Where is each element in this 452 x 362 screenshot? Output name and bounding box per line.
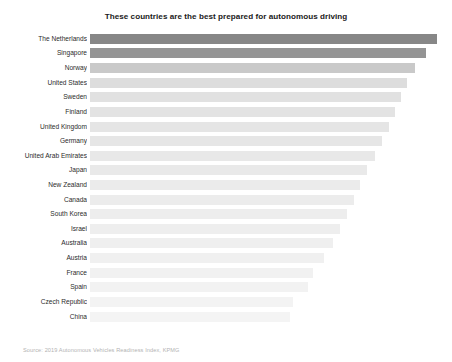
bar-track <box>90 312 447 322</box>
bar-category-label: United States <box>0 79 87 87</box>
bar-track <box>90 282 447 292</box>
bar-track <box>90 253 447 263</box>
bar-category-label: Japan <box>0 166 87 174</box>
bar-category-label: Australia <box>0 239 87 247</box>
bar-row: Japan <box>0 163 452 178</box>
bar-fill <box>90 195 354 205</box>
bar-track <box>90 238 447 248</box>
bar-fill <box>90 282 308 292</box>
bar-row: Norway <box>0 61 452 76</box>
bar-category-label: New Zealand <box>0 181 87 189</box>
bar-category-label: United Arab Emirates <box>0 152 87 160</box>
chart-plot-area: The NetherlandsSingaporeNorwayUnited Sta… <box>0 31 452 331</box>
bar-track <box>90 92 447 102</box>
bar-track <box>90 268 447 278</box>
bar-row: Spain <box>0 280 452 295</box>
bar-track <box>90 209 447 219</box>
bar-track <box>90 165 447 175</box>
bar-row: New Zealand <box>0 178 452 193</box>
bar-track <box>90 48 447 58</box>
bar-category-label: Israel <box>0 225 87 233</box>
bar-category-label: Finland <box>0 108 87 116</box>
bar-row: France <box>0 265 452 280</box>
bar-category-label: France <box>0 269 87 277</box>
bar-row: United Arab Emirates <box>0 148 452 163</box>
bar-row: Israel <box>0 222 452 237</box>
bar-fill <box>90 92 401 102</box>
bar-fill <box>90 151 375 161</box>
bar-track <box>90 78 447 88</box>
bar-row: Czech Republic <box>0 295 452 310</box>
chart-source-note: Source: 2019 Autonomous Vehicles Readine… <box>23 347 180 354</box>
bar-fill <box>90 48 426 58</box>
chart-title: These countries are the best prepared fo… <box>0 12 452 22</box>
bar-category-label: Norway <box>0 64 87 72</box>
bar-row: Singapore <box>0 46 452 61</box>
bar-track <box>90 122 447 132</box>
bar-fill <box>90 180 360 190</box>
bar-category-label: Germany <box>0 137 87 145</box>
bar-row: United States <box>0 75 452 90</box>
bar-fill <box>90 63 415 73</box>
bar-category-label: Sweden <box>0 93 87 101</box>
bar-fill <box>90 253 324 263</box>
bar-category-label: Czech Republic <box>0 298 87 306</box>
bar-fill <box>90 136 382 146</box>
bar-row: Sweden <box>0 90 452 105</box>
bar-row: Canada <box>0 192 452 207</box>
bar-row: Australia <box>0 236 452 251</box>
bar-track <box>90 151 447 161</box>
bar-fill <box>90 107 395 117</box>
chart-container: These countries are the best prepared fo… <box>0 0 452 362</box>
bar-fill <box>90 34 437 44</box>
bar-row: Austria <box>0 251 452 266</box>
bar-fill <box>90 122 389 132</box>
bar-track <box>90 34 447 44</box>
bar-category-label: China <box>0 313 87 321</box>
bar-track <box>90 195 447 205</box>
bar-track <box>90 224 447 234</box>
bar-track <box>90 136 447 146</box>
bar-fill <box>90 268 313 278</box>
bar-fill <box>90 224 340 234</box>
bar-track <box>90 63 447 73</box>
bar-track <box>90 107 447 117</box>
bar-category-label: Spain <box>0 283 87 291</box>
bar-fill <box>90 238 333 248</box>
bar-fill <box>90 165 367 175</box>
bar-row: Finland <box>0 105 452 120</box>
bar-category-label: Austria <box>0 254 87 262</box>
bar-fill <box>90 297 293 307</box>
bar-row: South Korea <box>0 207 452 222</box>
bar-fill <box>90 312 290 322</box>
bar-track <box>90 297 447 307</box>
bar-fill <box>90 78 407 88</box>
bar-category-label: The Netherlands <box>0 35 87 43</box>
bar-category-label: South Korea <box>0 210 87 218</box>
bar-fill <box>90 209 347 219</box>
bar-row: China <box>0 309 452 324</box>
bar-row: United Kingdom <box>0 119 452 134</box>
bar-category-label: Singapore <box>0 49 87 57</box>
bar-track <box>90 180 447 190</box>
bar-category-label: Canada <box>0 196 87 204</box>
bar-row: Germany <box>0 134 452 149</box>
bar-row: The Netherlands <box>0 32 452 47</box>
bar-category-label: United Kingdom <box>0 123 87 131</box>
